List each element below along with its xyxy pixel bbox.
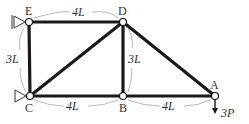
pin-support-e xyxy=(12,15,25,29)
dim-label-ed: 4L xyxy=(72,5,85,19)
node-c xyxy=(27,93,34,100)
member-cd xyxy=(30,22,123,96)
node-a xyxy=(212,93,219,100)
load-label: 3P xyxy=(220,106,235,120)
node-e xyxy=(26,19,33,26)
load-arrow xyxy=(212,100,218,114)
label-node-a: A xyxy=(210,78,219,92)
dim-label-ba: 4L xyxy=(162,99,175,113)
node-d xyxy=(120,19,127,26)
label-node-b: B xyxy=(119,101,127,115)
member-ec xyxy=(29,22,30,96)
label-node-c: C xyxy=(25,101,33,115)
dim-arc-ec xyxy=(20,28,27,92)
dim-label-cb: 4L xyxy=(66,99,79,113)
truss-diagram: E D C B A 4L 3L 3L 4L 4L 3P xyxy=(0,0,249,124)
dim-label-db: 3L xyxy=(127,52,141,66)
label-node-d: D xyxy=(118,4,127,18)
node-b xyxy=(120,93,127,100)
label-node-e: E xyxy=(25,4,32,18)
dim-label-ec: 3L xyxy=(5,52,19,66)
